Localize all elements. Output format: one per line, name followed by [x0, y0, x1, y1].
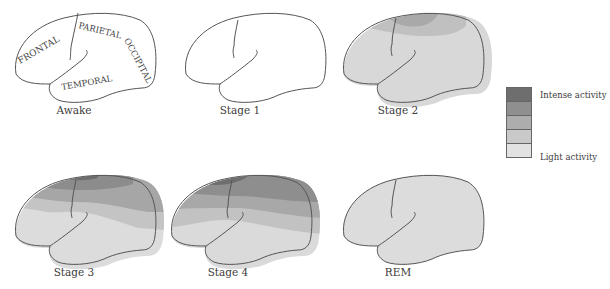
- legend-swatch-3: [506, 115, 532, 130]
- panel-rem: REM: [332, 166, 492, 286]
- panel-stage4: Stage 4: [160, 166, 320, 286]
- brain-diagram-stage1: [174, 4, 334, 114]
- caption-rem: REM: [338, 266, 458, 278]
- caption-stage1: Stage 1: [180, 104, 300, 116]
- panel-awake: FRONTAL PARIETAL OCCIPITAL TEMPORAL Awak…: [4, 4, 164, 124]
- brain-diagram-rem: [332, 166, 492, 276]
- caption-awake: Awake: [14, 104, 134, 116]
- legend-swatch-5: [506, 143, 532, 158]
- brain-diagram-stage2: [332, 4, 492, 114]
- activity-legend: Intense activity Light activity: [506, 88, 532, 158]
- brain-diagram-awake: FRONTAL PARIETAL OCCIPITAL TEMPORAL: [4, 4, 164, 114]
- caption-stage3: Stage 3: [14, 266, 134, 278]
- legend-label-intense: Intense activity: [540, 90, 607, 100]
- brain-diagram-stage4: [160, 166, 320, 276]
- brain-diagram-stage3: [4, 166, 164, 276]
- panel-stage2: Stage 2: [332, 4, 492, 124]
- legend-label-light: Light activity: [540, 152, 597, 162]
- panel-stage3: Stage 3: [4, 166, 164, 286]
- caption-stage2: Stage 2: [338, 104, 458, 116]
- caption-stage4: Stage 4: [168, 266, 288, 278]
- panel-stage1: Stage 1: [174, 4, 334, 124]
- legend-swatch-2: [506, 101, 532, 116]
- legend-swatch-4: [506, 129, 532, 144]
- legend-swatch-1: [506, 87, 532, 102]
